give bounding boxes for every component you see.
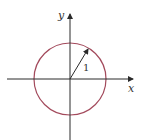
unit-circle-diagram: y x 1 (0, 0, 141, 140)
radius-label: 1 (83, 62, 89, 73)
y-axis-label: y (57, 9, 65, 22)
x-axis-label: x (128, 82, 135, 95)
